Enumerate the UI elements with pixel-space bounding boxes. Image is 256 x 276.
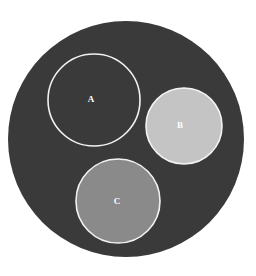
circle-label-a: A [88, 94, 95, 104]
diagram-canvas: A B C [0, 0, 256, 276]
nested-circles-diagram: A B C [0, 0, 256, 276]
circle-label-c: C [114, 196, 121, 206]
circle-label-b: B [177, 120, 183, 130]
circle-region-b[interactable] [146, 88, 222, 164]
